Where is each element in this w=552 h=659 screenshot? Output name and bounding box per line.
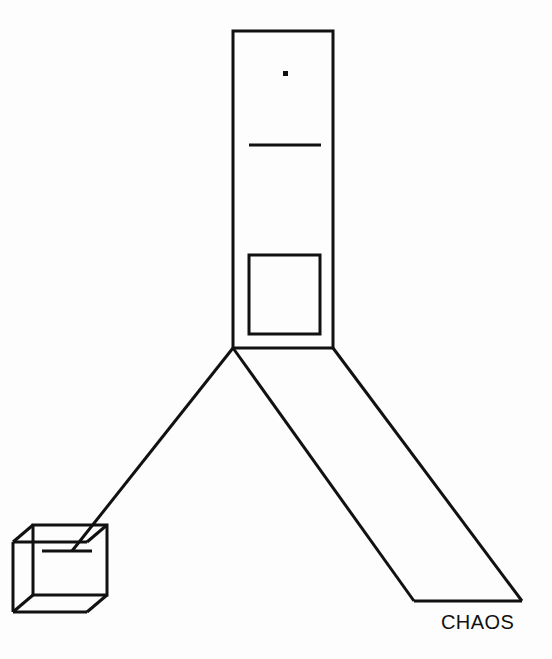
drawing-canvas: CHAOS	[0, 0, 552, 659]
leg-right-diagonal	[333, 348, 522, 601]
small-filled-square-dot	[283, 71, 288, 76]
cube-edge-top-left	[13, 525, 33, 542]
cube-edge-bottom-right	[87, 595, 107, 612]
leg-middle-diagonal	[233, 348, 414, 601]
inner-square	[249, 255, 320, 334]
chaos-caption: CHAOS	[441, 612, 514, 632]
chaos-line-drawing	[0, 0, 552, 659]
leg-left-to-cube	[72, 348, 233, 551]
cube-edge-bottom-left	[13, 595, 33, 612]
